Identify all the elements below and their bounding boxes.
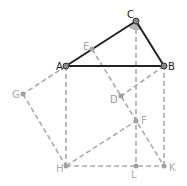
point-h	[64, 164, 69, 169]
label-h: H	[56, 163, 64, 174]
segment-gh	[23, 94, 66, 166]
point-l	[134, 164, 139, 169]
triangle-abc	[66, 21, 164, 66]
segment-hf	[66, 121, 136, 166]
label-c: C	[127, 9, 134, 20]
label-d: D	[110, 94, 118, 105]
label-g: G	[12, 89, 20, 100]
labels: A B C E D F G H L K	[12, 9, 176, 180]
label-f: F	[141, 115, 147, 126]
label-a: A	[56, 61, 63, 72]
point-d	[119, 94, 124, 99]
point-b	[161, 63, 167, 69]
point-a	[63, 63, 69, 69]
segment-ca	[66, 21, 136, 66]
segment-bd	[121, 66, 164, 96]
point-g	[21, 92, 26, 97]
label-l: L	[131, 169, 137, 180]
point-e	[90, 47, 95, 52]
label-b: B	[168, 61, 175, 72]
dashed-lines	[23, 21, 164, 166]
label-e: E	[83, 41, 89, 52]
geometry-diagram: A B C E D F G H L K	[0, 0, 187, 186]
label-k: K	[169, 162, 176, 173]
segment-bc	[136, 21, 164, 66]
point-f	[134, 119, 139, 124]
point-k	[162, 164, 167, 169]
points	[21, 18, 168, 169]
